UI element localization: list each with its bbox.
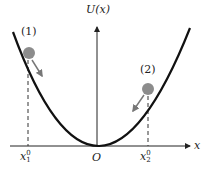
y-axis-label: U(x) [86,3,110,16]
ball-1-label: (1) [21,25,37,38]
velocity-arrow-1 [32,60,42,76]
ball-1 [23,47,35,59]
x2-label: x02 [140,150,151,164]
x1-label: x01 [20,150,31,164]
x-axis-label: x [194,139,200,152]
ball-2 [142,83,154,95]
velocity-arrow-2 [133,95,144,111]
origin-label: O [92,151,101,164]
potential-curve [13,28,190,146]
ball-2-label: (2) [140,63,156,76]
